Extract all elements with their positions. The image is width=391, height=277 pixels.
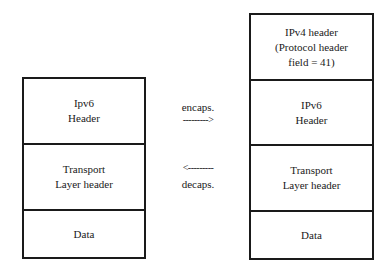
- data-cell: Data: [251, 210, 372, 258]
- encaps-arrow: --------->: [163, 114, 233, 125]
- cell-text: Layer header: [283, 178, 341, 193]
- cell-text: Header: [296, 113, 328, 128]
- cell-text: (Protocol header: [275, 40, 348, 55]
- encaps-label: encaps.: [163, 100, 233, 114]
- cell-text: IPv6: [296, 98, 328, 113]
- ipv4-encapsulated-packet-stack: IPv4 header (Protocol header field = 41)…: [249, 13, 374, 260]
- cell-text: Layer header: [55, 177, 113, 192]
- cell-text: Ipv6: [68, 96, 100, 111]
- cell-text: IPv4 header: [275, 25, 348, 40]
- cell-text: Header: [68, 111, 100, 126]
- cell-text: Data: [74, 227, 95, 242]
- transport-header-cell: Transport Layer header: [251, 144, 372, 210]
- ipv4-header-cell: IPv4 header (Protocol header field = 41): [251, 15, 372, 79]
- cell-text: Transport: [55, 162, 113, 177]
- ipv6-packet-stack: Ipv6 Header Transport Layer header Data: [22, 77, 146, 259]
- cell-text: Data: [301, 228, 322, 243]
- decaps-label: decaps.: [163, 177, 233, 191]
- ipv6-header-cell: IPv6 Header: [251, 79, 372, 144]
- transport-header-cell: Transport Layer header: [24, 143, 144, 209]
- ipv6-header-cell: Ipv6 Header: [24, 79, 144, 143]
- cell-text: field = 41): [275, 55, 348, 70]
- decaps-arrow: <---------: [163, 162, 233, 173]
- cell-text: Transport: [283, 163, 341, 178]
- data-cell: Data: [24, 209, 144, 257]
